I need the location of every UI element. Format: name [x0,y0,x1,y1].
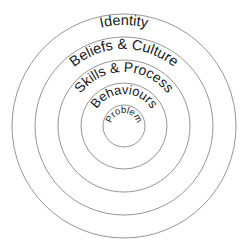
labels-group: IdentityBeliefs & CultureSkills & Proces… [66,12,181,124]
ring-beliefs-culture [35,37,213,215]
ring-label: Problem [103,104,145,124]
concentric-diagram: IdentityBeliefs & CultureSkills & Proces… [0,0,242,247]
ring-label: Identity [98,12,150,31]
ring-label: Beliefs & Culture [66,36,181,70]
